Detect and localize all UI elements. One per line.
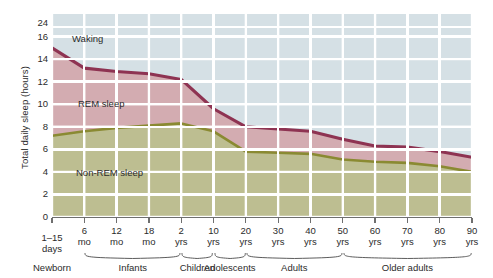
x-tick-mark <box>181 218 182 223</box>
age-group-brackets: NewbornInfantsChildrenAdolescentsAdultsO… <box>0 0 493 278</box>
x-tick-mark <box>310 218 311 223</box>
x-tick-mark <box>148 218 149 223</box>
sleep-across-lifespan-chart: Total daily sleep (hours) 02468101214162… <box>0 0 493 278</box>
x-tick-mark <box>213 218 214 223</box>
x-tick-mark <box>84 218 85 223</box>
group-bracket <box>181 253 213 261</box>
x-tick-mark <box>439 218 440 223</box>
x-tick-mark <box>116 218 117 223</box>
group-bracket <box>343 253 472 261</box>
x-tick-mark <box>245 218 246 223</box>
x-tick-mark <box>471 218 472 223</box>
group-bracket <box>246 253 343 261</box>
x-tick-mark <box>342 218 343 223</box>
x-tick-mark <box>278 218 279 223</box>
group-bracket <box>214 253 246 261</box>
x-tick-mark <box>374 218 375 223</box>
group-bracket <box>84 253 181 261</box>
group-label: Adults <box>244 262 344 273</box>
group-label: Older adults <box>357 262 457 273</box>
x-tick-mark <box>51 218 52 223</box>
x-tick-mark <box>407 218 408 223</box>
